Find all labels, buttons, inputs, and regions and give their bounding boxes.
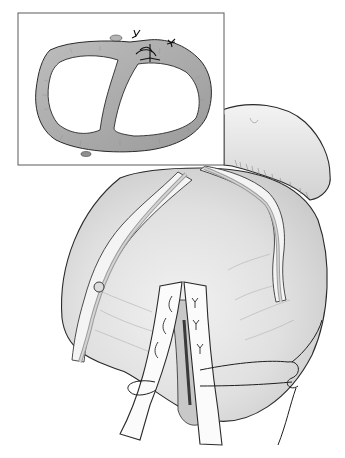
surgical-illustration	[0, 0, 345, 458]
inset-cross-section	[18, 13, 224, 165]
vessel-ligature	[94, 282, 104, 292]
